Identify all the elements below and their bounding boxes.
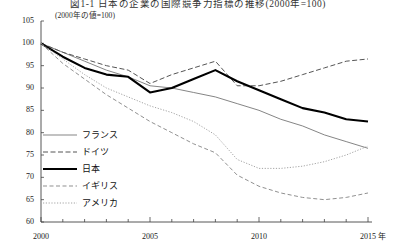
data-series-line [41,43,368,85]
x-axis-unit-label: 年 [378,233,386,241]
y-tick-label: 90 [8,84,34,92]
legend-label: ドイツ [82,145,109,158]
y-tick-label: 70 [8,173,34,181]
data-series-line [41,43,368,121]
legend-line-swatch [42,130,78,140]
legend-label: フランス [82,128,118,141]
plot-area [0,0,396,250]
legend-label: 日本 [82,162,100,175]
legend-label: イギリス [82,179,118,192]
x-tick-label: 2000 [21,233,61,241]
legend-item: 日本 [42,160,150,177]
legend-line-swatch [42,164,78,174]
x-tick-label: 2005 [130,233,170,241]
y-tick-label: 100 [8,39,34,47]
y-tick-label: 85 [8,106,34,114]
legend-item: アメリカ [42,194,150,211]
y-tick-label: 60 [8,218,34,226]
x-tick-marks [41,217,368,222]
y-tick-label: 65 [8,196,34,204]
legend-item: フランス [42,126,150,143]
legend-line-swatch [42,181,78,191]
legend-item: イギリス [42,177,150,194]
y-tick-label: 80 [8,129,34,137]
legend-line-swatch [42,198,78,208]
chart-figure: 図1-1 日本の企業の国際競争力指標の推移(2000年=100) (2000年の… [0,0,396,250]
legend-item: ドイツ [42,143,150,160]
x-tick-label: 2010 [239,233,279,241]
legend-line-swatch [42,147,78,157]
y-tick-label: 75 [8,151,34,159]
y-tick-label: 105 [8,17,34,25]
chart-legend: フランスドイツ日本イギリスアメリカ [42,126,150,211]
y-tick-label: 95 [8,62,34,70]
legend-label: アメリカ [82,196,118,209]
